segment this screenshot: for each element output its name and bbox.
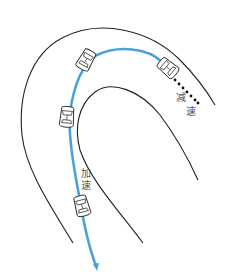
inner-road-edge <box>77 87 198 243</box>
accelerate-char-2: 速 <box>81 180 92 192</box>
car-icon-exit <box>73 194 92 218</box>
decelerate-char-1: 减 <box>176 92 187 104</box>
car-icon-apex <box>75 47 97 72</box>
car-icon-mid-exit <box>59 106 75 128</box>
decelerate-label: 减 <box>176 92 187 104</box>
arrow-head-icon <box>93 263 99 271</box>
decelerate-label-2: 速 <box>186 106 197 118</box>
decelerate-char-2: 速 <box>186 106 197 118</box>
accelerate-label: 加 速 <box>81 168 92 192</box>
curve-driving-diagram <box>0 0 230 272</box>
accelerate-char-1: 加 <box>81 168 92 180</box>
